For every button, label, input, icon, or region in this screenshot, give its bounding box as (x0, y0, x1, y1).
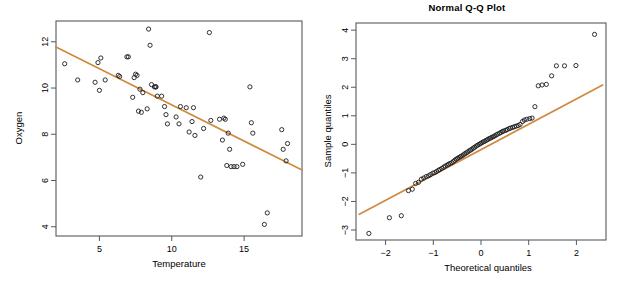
data-point (162, 104, 166, 108)
data-point (533, 105, 537, 109)
data-point (544, 82, 548, 86)
data-point (103, 78, 107, 82)
data-point (97, 88, 101, 92)
data-point (99, 56, 103, 60)
data-point (209, 118, 213, 122)
data-point (235, 165, 239, 169)
y-tick-label: −3 (340, 225, 350, 235)
data-point (241, 162, 245, 166)
data-point (76, 78, 80, 82)
y-tick-label: 6 (40, 178, 50, 183)
x-tick-label: −2 (380, 248, 390, 258)
data-point (228, 147, 232, 151)
data-point (554, 64, 558, 68)
data-point (265, 211, 269, 215)
qq-plot-svg: Normal Q-Q Plot −2−1012−3−2−101234 Theor… (311, 0, 622, 284)
data-point (262, 222, 266, 226)
data-point (248, 85, 252, 89)
data-point (280, 128, 284, 132)
x-tick-label: 0 (478, 248, 483, 258)
y-tick-label: 8 (40, 132, 50, 137)
data-point (177, 122, 181, 126)
data-point (165, 122, 169, 126)
data-point (96, 61, 100, 65)
scatter-plot-svg: 510154681012 Temperature Oxygen (0, 0, 311, 284)
plot-frame (356, 23, 606, 240)
data-point (187, 130, 191, 134)
data-point (145, 107, 149, 111)
x-axis-label: Temperature (152, 258, 205, 269)
y-tick-label: 2 (340, 85, 350, 90)
scatter-plot-panel: 510154681012 Temperature Oxygen (0, 0, 311, 284)
x-tick-label: 1 (526, 248, 531, 258)
figure-canvas: 510154681012 Temperature Oxygen Normal Q… (0, 0, 622, 284)
data-point (225, 163, 229, 167)
data-point (281, 147, 285, 151)
fit-line (359, 85, 602, 214)
data-point (410, 187, 414, 191)
data-point (148, 43, 152, 47)
data-point (207, 30, 211, 34)
y-axis-label: Oxygen (13, 112, 24, 145)
plot-title: Normal Q-Q Plot (429, 2, 507, 13)
data-point (190, 119, 194, 123)
y-tick-label: 3 (340, 56, 350, 61)
data-point (550, 74, 554, 78)
data-point (562, 64, 566, 68)
data-point (174, 115, 178, 119)
y-tick-label: 1 (340, 113, 350, 118)
data-point (178, 104, 182, 108)
x-tick-label: 5 (97, 244, 102, 254)
data-point (199, 175, 203, 179)
y-tick-label: 12 (40, 37, 50, 47)
data-point (387, 216, 391, 220)
data-point (217, 117, 221, 121)
data-point (160, 94, 164, 98)
y-tick-label: 4 (40, 224, 50, 229)
data-point (249, 121, 253, 125)
y-axis-label: Sample quantiles (322, 94, 333, 167)
data-point (285, 141, 289, 145)
x-tick-label: −1 (428, 248, 438, 258)
data-point (220, 138, 224, 142)
data-point (193, 133, 197, 137)
data-point (184, 106, 188, 110)
data-point (574, 63, 578, 67)
x-tick-label: 10 (167, 244, 177, 254)
data-point (131, 95, 135, 99)
data-point (191, 106, 195, 110)
qq-plot-panel: Normal Q-Q Plot −2−1012−3−2−101234 Theor… (311, 0, 622, 284)
x-axis-label: Theoretical quantiles (444, 262, 532, 273)
y-tick-label: 0 (340, 142, 350, 147)
y-tick-label: 4 (340, 28, 350, 33)
data-point (592, 32, 596, 36)
plot-frame (56, 21, 302, 236)
x-tick-label: 2 (574, 248, 579, 258)
data-point (367, 231, 371, 235)
data-point (251, 131, 255, 135)
y-tick-label: −2 (340, 196, 350, 206)
y-tick-label: 10 (40, 83, 50, 93)
data-point (93, 80, 97, 84)
y-tick-label: −1 (340, 168, 350, 178)
data-point (202, 126, 206, 130)
data-point (399, 214, 403, 218)
data-point (147, 27, 151, 31)
x-tick-label: 15 (239, 244, 249, 254)
data-point (63, 62, 67, 66)
data-point (164, 113, 168, 117)
